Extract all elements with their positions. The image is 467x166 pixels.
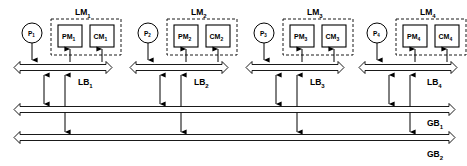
global-bus-2-group: GB2 — [14, 132, 455, 161]
local-bus-4 — [359, 62, 457, 74]
local-bus-label-3: LB3 — [310, 77, 325, 89]
local-bus-2 — [130, 62, 228, 74]
cluster-3: LM3 PM3 CM3 P3 LB3 — [246, 7, 353, 132]
local-bus-label-2: LB2 — [194, 77, 209, 89]
local-module-label-1: LM1 — [75, 7, 91, 19]
cluster-1: LM1 PM1 CM1 P1 LB1 — [14, 7, 121, 132]
architecture-diagram: LM1 PM1 CM1 P1 LB1 LM2 PM2 CM2 P2 — [0, 0, 467, 166]
global-bus-1-group: GB1 — [14, 104, 455, 130]
global-bus-label-1: GB1 — [427, 118, 444, 130]
local-bus-label-4: LB4 — [427, 77, 442, 89]
global-bus-2 — [14, 132, 455, 144]
local-module-label-2: LM2 — [191, 7, 207, 19]
local-bus-1 — [14, 62, 112, 74]
local-bus-label-1: LB1 — [78, 77, 93, 89]
architecture-canvas: LM1 PM1 CM1 P1 LB1 LM2 PM2 CM2 P2 — [0, 0, 467, 166]
global-bus-label-2: GB2 — [427, 149, 444, 161]
global-bus-1 — [14, 104, 455, 116]
local-bus-3 — [246, 62, 344, 74]
cluster-2: LM2 PM2 CM2 P2 LB2 — [130, 7, 237, 132]
local-module-label-3: LM3 — [307, 7, 323, 19]
local-module-label-4: LM4 — [420, 7, 436, 19]
